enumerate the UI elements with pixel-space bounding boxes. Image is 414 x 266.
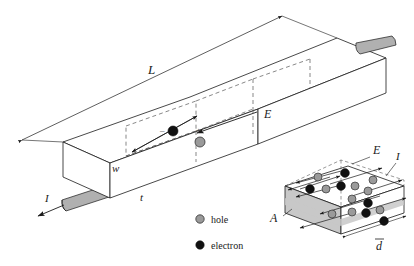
legend-label-hole: hole	[211, 214, 229, 225]
diagram-svg: L w t I E – + hole electron A E I d	[0, 0, 414, 266]
label-area: A	[269, 211, 278, 225]
svg-text:d: d	[376, 239, 383, 253]
inset-field-leader	[352, 157, 370, 164]
label-length: L	[147, 62, 155, 77]
inset-current-leader	[386, 163, 396, 176]
hole-marker	[195, 137, 205, 147]
legend-label-electron: electron	[211, 240, 243, 251]
current-arrow-left	[38, 205, 64, 216]
label-width: w	[112, 162, 120, 174]
label-field-inset: E	[372, 143, 381, 157]
figure-canvas: L w t I E – + hole electron A E I d	[0, 0, 414, 266]
legend-hole-marker	[196, 215, 204, 223]
label-current-inset: I	[395, 150, 401, 162]
legend-electron-marker	[196, 241, 204, 249]
electron-sign: –	[159, 125, 165, 135]
label-current-left: I	[44, 192, 50, 204]
electron-marker	[168, 126, 178, 136]
hole-sign: +	[196, 125, 201, 135]
label-thickness: t	[140, 191, 144, 203]
label-field-main: E	[263, 107, 272, 121]
label-drift-distance: d	[375, 239, 384, 253]
right-terminal-lead	[356, 36, 396, 54]
